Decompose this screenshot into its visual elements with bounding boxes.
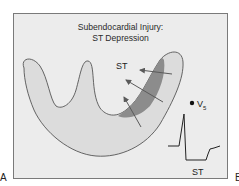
st-vector-label: ST <box>116 61 128 71</box>
ecg-trace <box>168 114 220 160</box>
panel-letter-a: A <box>0 172 7 183</box>
panel-letter-b: B <box>235 172 239 183</box>
ecg-st-label: ST <box>192 167 204 177</box>
diagram-title: Subendocardial Injury: ST Depression <box>13 22 228 43</box>
title-line-2: ST Depression <box>13 33 228 44</box>
lead-subscript: 5 <box>203 105 206 111</box>
title-line-1: Subendocardial Injury: <box>13 22 228 33</box>
v5-electrode-dot <box>190 101 194 105</box>
lead-v5-label: V5 <box>197 99 206 111</box>
